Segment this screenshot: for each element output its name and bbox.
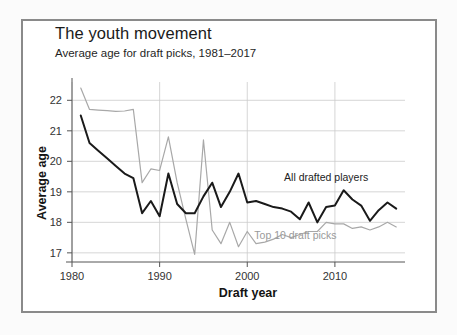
chart-plot: 222120191817 1980199020002010 All drafte…: [0, 0, 457, 335]
y-tick-labels-group: 222120191817: [50, 94, 62, 259]
y-tick-label: 22: [50, 94, 62, 106]
x-tick-label: 1980: [60, 270, 84, 282]
y-tick-label: 21: [50, 125, 62, 137]
y-tick-label: 17: [50, 247, 62, 259]
series-line-all-drafted-players: [81, 116, 396, 223]
series-annotation-top-10-draft-picks: Top 10 draft picks: [254, 229, 336, 241]
x-tick-label: 2010: [323, 270, 347, 282]
x-tick-label: 2000: [235, 270, 259, 282]
y-tick-label: 20: [50, 155, 62, 167]
y-axis-title: Average age: [35, 146, 49, 220]
x-tick-label: 1990: [147, 270, 171, 282]
x-tick-labels-group: 1980199020002010: [60, 270, 347, 282]
x-axis-title: Draft year: [219, 286, 277, 300]
series-annotation-all-drafted-players: All drafted players: [284, 171, 368, 183]
y-tick-label: 18: [50, 216, 62, 228]
y-tick-label: 19: [50, 186, 62, 198]
screenshot-page: The youth movement Average age for draft…: [0, 0, 457, 335]
